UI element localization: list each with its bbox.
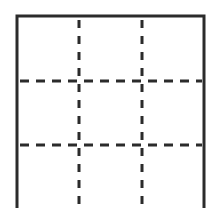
grid-diagram — [0, 0, 211, 208]
outer-square — [17, 16, 204, 208]
